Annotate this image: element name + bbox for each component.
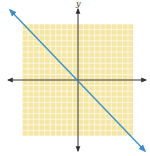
coordinate-plane	[0, 0, 150, 156]
y-axis-label: y	[76, 0, 81, 8]
